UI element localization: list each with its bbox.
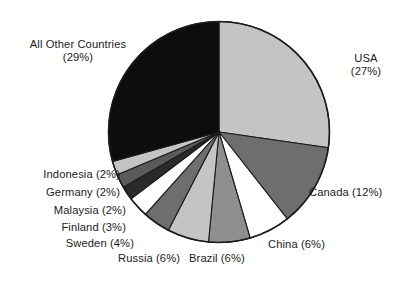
- pie-slice-usa: [219, 22, 330, 148]
- slice-label-malaysia: Malaysia (2%): [10, 204, 126, 217]
- slice-label-china: China (6%): [268, 238, 346, 251]
- slice-label-germany: Germany (2%): [4, 186, 120, 199]
- slice-label-usa: USA (27%): [333, 52, 399, 77]
- pie-chart-figure: All Other Countries (29%) USA (27%) Cana…: [0, 0, 407, 285]
- slice-label-indonesia: Indonesia (2%): [0, 168, 120, 181]
- slice-label-all-other-countries: All Other Countries (29%): [14, 38, 142, 63]
- slice-label-russia: Russia (6%): [118, 252, 198, 265]
- slice-label-brazil: Brazil (6%): [189, 252, 267, 265]
- slice-label-finland: Finland (3%): [22, 221, 126, 234]
- slice-label-canada: Canada (12%): [309, 186, 405, 199]
- slice-label-sweden: Sweden (4%): [30, 237, 134, 250]
